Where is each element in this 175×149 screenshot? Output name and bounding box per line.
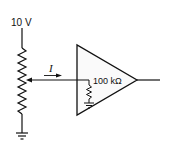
input-resistance-label: 100 kΩ [93, 76, 122, 86]
current-arrow-icon [56, 74, 62, 78]
current-label: I [48, 62, 54, 74]
ground-icon [16, 133, 28, 139]
supply-voltage-label: 10 V [11, 17, 32, 28]
wiper-arrow-icon [26, 78, 32, 83]
circuit-diagram: 10 V I 100 kΩ [0, 0, 175, 149]
potentiometer-resistor [18, 48, 26, 114]
